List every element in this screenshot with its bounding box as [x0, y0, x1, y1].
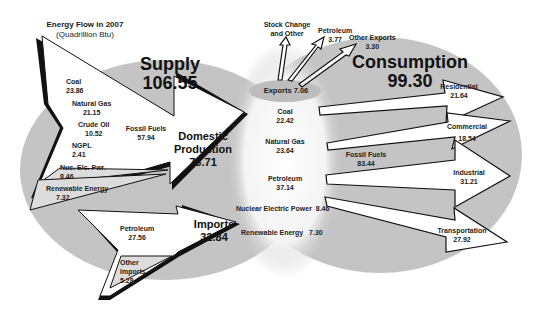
title-line-2: (Quadrillion Btu)	[40, 30, 130, 40]
sector-residential: Residential21.64	[436, 82, 482, 100]
center-glow	[227, 42, 343, 278]
supply-coal: Coal23.86	[66, 77, 84, 95]
supply-label: Supply	[130, 55, 210, 74]
export-stock-change: Stock Changeand Other	[262, 20, 312, 38]
export-petroleum: Petroleum3.77	[318, 26, 352, 44]
supply-fossil-fuels: Fossil Fuels57.94	[118, 124, 174, 142]
supply-ngpl: NGPL2.41	[72, 141, 91, 159]
sector-industrial: Industrial31.21	[446, 168, 492, 186]
supply-natural-gas: Natural Gas21.15	[72, 99, 111, 117]
energy-flow-diagram	[0, 0, 534, 320]
sector-commercial: Commercial18.54	[444, 122, 490, 143]
imports-label: Imports 32.84	[188, 218, 240, 244]
export-other: Other Exports3.30	[349, 33, 396, 51]
supply-total: Supply 106.55	[130, 55, 210, 93]
imports-petroleum: Petroleum27.56	[120, 224, 154, 242]
chart-title: Energy Flow in 2007 (Quadrillion Btu)	[40, 20, 130, 40]
supply-nuclear: Nuc. Elc. Pwr.8.46	[60, 163, 106, 181]
consumption-petroleum: Petroleum37.14	[260, 174, 310, 192]
consumption-nuclear: Nuclear Electric Power 8.46	[236, 204, 329, 213]
consumption-fossil-fuels: Fossil Fuels83.44	[344, 150, 388, 168]
supply-crude-oil: Crude Oil10.52	[78, 120, 110, 138]
supply-value: 106.55	[130, 74, 210, 93]
sector-transportation: Transportation27.92	[432, 226, 492, 244]
exports-label: Exports 7.06	[255, 86, 317, 95]
consumption-natural-gas: Natural Gas23.64	[255, 137, 315, 155]
supply-renewable: Renewable Energy7.32	[46, 184, 108, 202]
title-line-1: Energy Flow in 2007	[47, 20, 124, 29]
imports-other: Other Imports 5.28	[120, 258, 146, 285]
consumption-renewable: Renewable Energy 7.30	[241, 228, 323, 237]
domestic-production-label: Domestic Production 73.71	[166, 130, 240, 169]
consumption-coal: Coal22.42	[265, 107, 305, 125]
consumption-label: Consumption	[345, 53, 475, 72]
